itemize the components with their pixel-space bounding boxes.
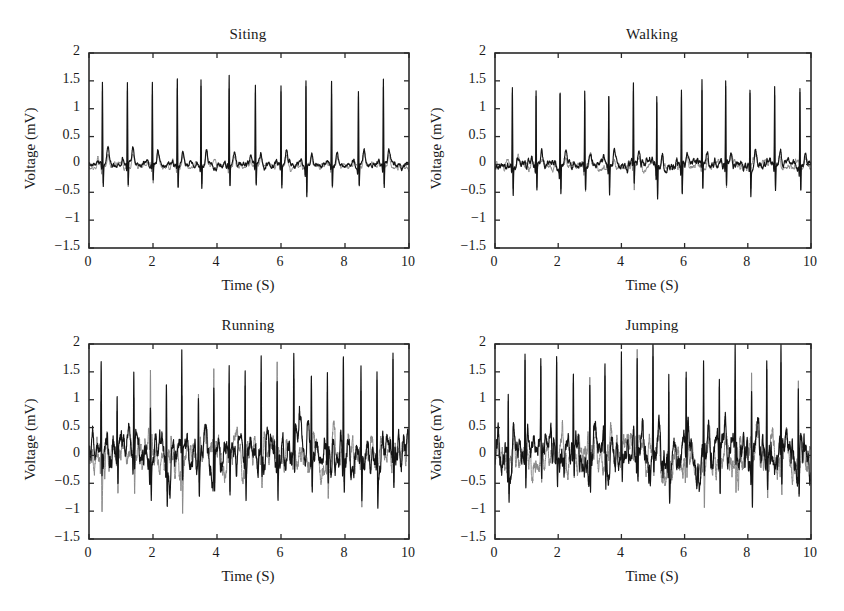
- xtick-label-jumping-2: 4: [600, 545, 640, 561]
- subplot-title-siting: Siting: [88, 26, 408, 43]
- xtick-label-siting-1: 2: [132, 254, 172, 270]
- xtick-label-walking-4: 8: [727, 254, 767, 270]
- subplot-running: Running−1.5−1−0.500.511.520246810Voltage…: [18, 313, 418, 598]
- xtick-label-siting-5: 10: [388, 254, 428, 270]
- xtick-label-walking-0: 0: [474, 254, 514, 270]
- ecg-activity-figure: Siting−1.5−1−0.500.511.520246810Voltage …: [0, 0, 844, 611]
- xtick-label-jumping-4: 8: [727, 545, 767, 561]
- xtick-label-running-0: 0: [68, 545, 108, 561]
- xtick-label-walking-5: 10: [790, 254, 830, 270]
- plot-area-running: [88, 343, 422, 552]
- xtick-label-jumping-5: 10: [790, 545, 830, 561]
- xtick-label-running-2: 4: [196, 545, 236, 561]
- y-axis-label-walking: Voltage (mV): [428, 51, 445, 246]
- xtick-label-siting-0: 0: [68, 254, 108, 270]
- axis-ticks-siting: [89, 53, 409, 248]
- subplot-title-running: Running: [88, 317, 408, 334]
- trace-measured-ecg-running: [89, 350, 409, 508]
- subplot-title-jumping: Jumping: [494, 317, 810, 334]
- y-axis-label-siting: Voltage (mV): [22, 51, 39, 246]
- plot-area-walking: [494, 52, 824, 261]
- x-axis-label-walking: Time (S): [494, 277, 810, 294]
- xtick-label-siting-3: 6: [260, 254, 300, 270]
- trace-measured-ecg-siting: [89, 75, 409, 196]
- xtick-label-walking-1: 2: [537, 254, 577, 270]
- trace-measured-ecg-walking: [495, 80, 811, 199]
- subplot-jumping: Jumping−1.5−1−0.500.511.520246810Voltage…: [424, 313, 820, 598]
- plot-area-jumping: [494, 343, 824, 552]
- subplot-siting: Siting−1.5−1−0.500.511.520246810Voltage …: [18, 22, 418, 307]
- xtick-label-running-4: 8: [324, 545, 364, 561]
- trace-reference-ecg-siting: [89, 86, 409, 193]
- xtick-label-walking-2: 4: [600, 254, 640, 270]
- xtick-label-walking-3: 6: [664, 254, 704, 270]
- trace-reference-ecg-walking: [495, 86, 811, 194]
- xtick-label-siting-4: 8: [324, 254, 364, 270]
- xtick-label-running-5: 10: [388, 545, 428, 561]
- trace-measured-ecg-jumping: [495, 344, 811, 507]
- xtick-label-jumping-0: 0: [474, 545, 514, 561]
- xtick-label-running-3: 6: [260, 545, 300, 561]
- x-axis-label-siting: Time (S): [88, 277, 408, 294]
- xtick-label-siting-2: 4: [196, 254, 236, 270]
- x-axis-label-running: Time (S): [88, 568, 408, 585]
- axis-frame-siting: [89, 53, 409, 248]
- plot-area-siting: [88, 52, 422, 261]
- subplot-title-walking: Walking: [494, 26, 810, 43]
- xtick-label-jumping-3: 6: [664, 545, 704, 561]
- subplot-walking: Walking−1.5−1−0.500.511.520246810Voltage…: [424, 22, 820, 307]
- xtick-label-jumping-1: 2: [537, 545, 577, 561]
- x-axis-label-jumping: Time (S): [494, 568, 810, 585]
- y-axis-label-running: Voltage (mV): [22, 342, 39, 537]
- y-axis-label-jumping: Voltage (mV): [428, 342, 445, 537]
- xtick-label-running-1: 2: [132, 545, 172, 561]
